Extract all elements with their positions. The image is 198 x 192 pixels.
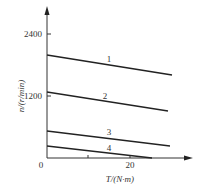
x-tick-label-20: 20	[126, 160, 136, 170]
line-label-1: 1	[107, 54, 112, 64]
y-axis-arrow-icon	[45, 6, 50, 15]
y-tick-label-1200: 1200	[24, 91, 43, 101]
line-label-2: 2	[103, 91, 108, 101]
y-axis-label: n/(r/min)	[16, 80, 26, 113]
series-line-4	[47, 146, 152, 158]
line-label-3: 3	[107, 127, 112, 137]
origin-label: 0	[39, 160, 44, 170]
chart: 2400 1200 0 20 T/(N·m) n/(r/min) 1 2 3 4	[0, 0, 198, 192]
x-axis-label: T/(N·m)	[106, 174, 134, 184]
series-line-2	[47, 92, 168, 111]
x-axis-arrow-icon	[184, 156, 193, 161]
line-label-4: 4	[107, 143, 112, 153]
y-tick-label-2400: 2400	[24, 29, 43, 39]
